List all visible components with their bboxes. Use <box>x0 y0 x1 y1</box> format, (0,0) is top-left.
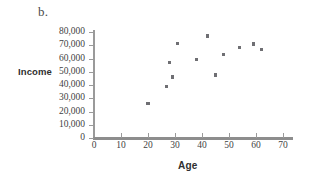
x-axis-tick <box>202 133 203 138</box>
x-axis-tick <box>283 133 284 138</box>
y-axis-tick <box>89 125 94 126</box>
x-axis-tick-label: 10 <box>108 140 134 150</box>
x-axis-tick <box>175 133 176 138</box>
data-point <box>252 42 255 45</box>
y-axis-tick-label: 20,000 <box>33 106 85 116</box>
plot-area: 010,00020,00030,00040,00050,00060,00070,… <box>0 0 315 184</box>
data-point <box>195 58 198 61</box>
y-axis-tick-label: 70,000 <box>33 39 85 49</box>
y-axis-tick <box>89 85 94 86</box>
x-axis-tick-label: 40 <box>189 140 215 150</box>
data-point <box>206 34 209 37</box>
y-axis-tick-label: 80,000 <box>33 26 85 36</box>
data-point <box>176 42 179 45</box>
y-axis-tick <box>89 72 94 73</box>
x-axis-tick-label: 20 <box>135 140 161 150</box>
x-axis-tick <box>256 133 257 138</box>
y-axis-tick <box>89 138 94 139</box>
data-point <box>146 102 149 105</box>
y-axis-tick-label: 10,000 <box>33 119 85 129</box>
y-axis-tick <box>89 98 94 99</box>
data-point <box>168 61 171 64</box>
x-axis-title: Age <box>178 160 198 171</box>
data-point <box>222 53 225 56</box>
y-axis-tick-label: 30,000 <box>33 92 85 102</box>
y-axis-tick <box>89 59 94 60</box>
scatter-plot-figure: b. 010,00020,00030,00040,00050,00060,000… <box>0 0 315 184</box>
y-axis-tick-label: 60,000 <box>33 53 85 63</box>
y-axis-tick <box>89 32 94 33</box>
y-axis-title: Income <box>18 66 52 77</box>
y-axis-tick-label: 40,000 <box>33 79 85 89</box>
x-axis-tick-label: 0 <box>81 140 107 150</box>
y-axis-tick-label: 0 <box>33 132 85 142</box>
data-point <box>260 48 263 51</box>
x-axis-tick <box>121 133 122 138</box>
data-point <box>171 75 174 78</box>
x-axis-tick-label: 70 <box>270 140 296 150</box>
data-point <box>238 46 241 49</box>
x-axis-tick <box>229 133 230 138</box>
y-axis-tick <box>89 45 94 46</box>
x-axis-tick <box>148 133 149 138</box>
x-axis-tick-label: 60 <box>243 140 269 150</box>
data-point <box>214 73 217 76</box>
x-axis-tick-label: 50 <box>216 140 242 150</box>
data-point <box>165 85 168 88</box>
y-axis-tick <box>89 112 94 113</box>
x-axis-tick-label: 30 <box>162 140 188 150</box>
